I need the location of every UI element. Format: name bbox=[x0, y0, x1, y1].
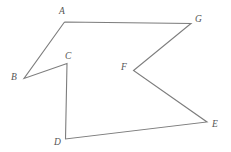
geometry-figure: A B C D E F G bbox=[0, 0, 231, 152]
vertex-label-g: G bbox=[195, 14, 202, 24]
vertex-label-c: C bbox=[65, 51, 71, 61]
polygon-path bbox=[24, 22, 207, 139]
vertex-label-d: D bbox=[54, 137, 61, 147]
vertex-label-e: E bbox=[212, 119, 218, 129]
vertex-label-b: B bbox=[11, 72, 17, 82]
vertex-label-f: F bbox=[121, 62, 127, 72]
vertex-label-a: A bbox=[59, 6, 65, 16]
